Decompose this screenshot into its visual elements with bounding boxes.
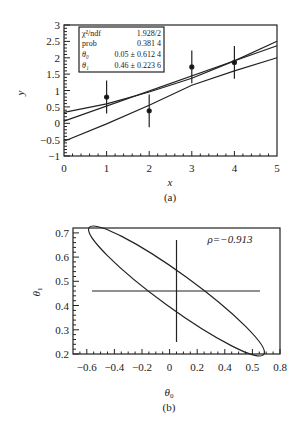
panel-a: −1 −0.5 0 0.5 1 1.5 2 2.5 3 0 1 2 3 4 5 …: [14, 19, 280, 204]
stat-prob-value: 0.381 4: [137, 39, 161, 48]
panel-b-caption: (b): [163, 401, 176, 414]
plot-a-x-axis-title: x: [167, 176, 173, 188]
x-tick-label: −0.4: [104, 361, 124, 373]
plot-b-y-axis-title: θ1: [30, 287, 44, 296]
plot-b-x-axis-title: θ0: [165, 386, 174, 400]
plot-b-y-tick-labels: 0.2 0.3 0.4 0.5 0.6 0.7: [55, 227, 69, 360]
x-tick-label: 1: [104, 162, 110, 174]
x-tick-label: −0.2: [132, 361, 152, 373]
y-tick-label: 0: [55, 117, 61, 129]
x-tick-label: 3: [189, 162, 195, 174]
plot-a-x-tick-labels: 0 1 2 3 4 5: [61, 162, 280, 174]
x-tick-label: −0.6: [77, 361, 97, 373]
plot-a-y-axis-title: y: [14, 90, 26, 96]
y-tick-label: 0.6: [55, 251, 69, 263]
panel-a-caption: (a): [164, 191, 177, 204]
y-tick-label: 0.4: [55, 300, 69, 312]
plot-b-x-tick-labels: −0.6 −0.4 −0.2 0 0.2 0.4 0.5 0.8: [77, 361, 288, 373]
y-tick-label: 1.5: [46, 68, 60, 80]
stat-theta1-value: 0.46 ± 0.223 6: [115, 61, 161, 70]
panel-b: 0.2 0.3 0.4 0.5 0.6 0.7 −0.6 −0.4 −0.2 0…: [30, 214, 287, 414]
y-tick-label: 0.5: [46, 101, 60, 113]
stat-prob-label: prob: [82, 39, 97, 48]
y-tick-label: 3: [55, 19, 61, 31]
plot-b-y-ticks: [73, 233, 79, 354]
x-tick-label: 0: [61, 162, 67, 174]
plot-a-y-ticks: [64, 25, 70, 156]
plot-a-x-ticks: [73, 151, 269, 156]
correlation-annotation: ρ=−0.913: [207, 233, 253, 245]
y-tick-label: 2.5: [46, 35, 60, 47]
y-tick-label: 0.7: [55, 227, 69, 239]
data-point: [232, 60, 236, 64]
y-tick-label: −0.5: [40, 134, 60, 146]
x-tick-label: 0.8: [273, 361, 287, 373]
x-tick-label: 2: [146, 162, 152, 174]
y-tick-label: 2: [55, 52, 61, 64]
y-tick-label: −1: [48, 150, 60, 162]
y-tick-label: 0.3: [55, 324, 69, 336]
x-tick-label: 4: [232, 162, 238, 174]
x-tick-label: 5: [274, 162, 280, 174]
y-tick-label: 0.5: [55, 275, 69, 287]
stat-chi-value: 1.928/2: [137, 29, 161, 38]
plot-b-x-ticks: [80, 349, 280, 354]
stat-chi-label: χ²/ndf: [81, 29, 101, 38]
y-tick-label: 0.2: [55, 348, 69, 360]
x-tick-label: 0: [167, 361, 173, 373]
fit-stats-box: χ²/ndf 1.928/2 prob 0.381 4 θ₀ 0.05 ± 0.…: [79, 27, 164, 72]
stat-theta0-label: θ₀: [82, 50, 89, 59]
x-tick-label: 0.2: [190, 361, 204, 373]
x-tick-label: 0.4: [218, 361, 232, 373]
data-point: [190, 65, 194, 69]
plot-a-y-tick-labels: −1 −0.5 0 0.5 1 1.5 2 2.5 3: [40, 19, 60, 162]
stat-theta0-value: 0.05 ± 0.612 4: [115, 50, 161, 59]
x-tick-label: 0.5: [246, 361, 260, 373]
data-point: [105, 95, 109, 99]
stat-theta1-label: θ₁: [82, 61, 89, 70]
y-tick-label: 1: [55, 85, 61, 97]
data-point: [147, 109, 151, 113]
